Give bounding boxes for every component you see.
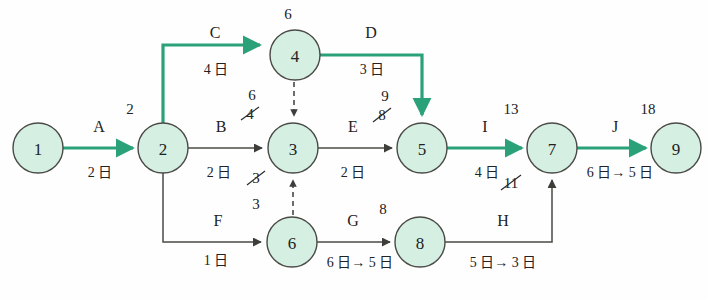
- edge-I-duration: 4 日: [475, 165, 500, 180]
- node-4-label: 4: [291, 47, 300, 66]
- event-time-node-5-superseded: 8: [373, 107, 391, 123]
- event-time-node-5-updated: 9: [381, 88, 389, 104]
- edge-C-label: C: [210, 24, 221, 41]
- edge-G-label: G: [347, 212, 359, 229]
- event-time-node-3-lower-updated: 3: [252, 196, 260, 212]
- edge-B-duration: 2 日: [207, 165, 232, 180]
- node-3-label: 3: [289, 140, 298, 159]
- node-5[interactable]: 5: [397, 123, 447, 173]
- event-time-node-7-superseded: 11: [501, 175, 521, 191]
- event-time-node-3-superseded: 4: [241, 106, 259, 122]
- edge-E-duration: 2 日: [341, 165, 366, 180]
- edge-H: [445, 180, 552, 242]
- edge-J-label: J: [612, 118, 618, 135]
- node-8-label: 8: [416, 234, 425, 253]
- event-time-node-8: 8: [379, 201, 387, 217]
- network-diagram-canvas: 1 2 3 4 5 6 7 8: [0, 0, 708, 300]
- node-2[interactable]: 2: [138, 123, 188, 173]
- node-4[interactable]: 4: [270, 30, 320, 80]
- edge-H-line: [445, 180, 552, 242]
- node-1[interactable]: 1: [13, 123, 63, 173]
- node-5-label: 5: [418, 140, 427, 159]
- edge-F: [163, 173, 261, 242]
- edge-F-label: F: [214, 212, 223, 229]
- node-8[interactable]: 8: [395, 217, 445, 267]
- edge-D-duration: 3 日: [360, 62, 385, 77]
- edge-F-line: [163, 173, 261, 242]
- edge-A-duration: 2 日: [88, 165, 113, 180]
- node-6[interactable]: 6: [267, 217, 317, 267]
- edge-B-label: B: [216, 118, 227, 135]
- node-7-label: 7: [548, 140, 557, 159]
- edge-D-label: D: [365, 24, 377, 41]
- node-3[interactable]: 3: [268, 123, 318, 173]
- node-7[interactable]: 7: [527, 123, 577, 173]
- edge-J-duration: 6 日→ 5 日: [587, 165, 654, 180]
- node-6-label: 6: [288, 234, 297, 253]
- node-9[interactable]: 9: [651, 123, 701, 173]
- event-time-node-9: 18: [641, 101, 656, 117]
- event-time-node-2: 2: [126, 101, 134, 117]
- edge-I-label: I: [482, 118, 487, 135]
- node-2-label: 2: [159, 140, 168, 159]
- edge-G-duration: 6 日→ 5 日: [327, 255, 394, 270]
- node-1-label: 1: [34, 140, 43, 159]
- edge-H-label: H: [497, 212, 509, 229]
- edge-C-duration: 4 日: [204, 62, 229, 77]
- edge-H-duration: 5 日→ 3 日: [470, 255, 537, 270]
- edge-E-label: E: [348, 118, 358, 135]
- event-time-node-3-updated: 6: [248, 87, 256, 103]
- edge-F-duration: 1 日: [204, 253, 229, 268]
- event-time-node-3-lower-superseded: 3: [247, 170, 265, 186]
- event-time-node-7-updated: 13: [504, 101, 519, 117]
- edge-A-label: A: [93, 118, 105, 135]
- node-9-label: 9: [672, 140, 681, 159]
- event-time-node-4: 6: [284, 6, 292, 22]
- network-diagram-svg: 1 2 3 4 5 6 7 8: [0, 0, 708, 300]
